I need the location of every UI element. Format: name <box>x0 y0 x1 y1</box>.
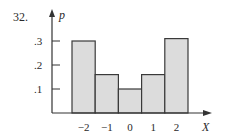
y-axis-label: p <box>58 8 65 22</box>
bar--1 <box>95 75 118 113</box>
x-tick-label: 0 <box>127 121 133 133</box>
bar-1 <box>142 75 165 113</box>
bars-group <box>72 39 188 113</box>
x-tick-label: −2 <box>78 121 90 133</box>
y-tick-label: .1 <box>34 83 42 95</box>
bar-0 <box>118 89 141 113</box>
x-axis-label: X <box>201 120 210 134</box>
y-ticks-group: .1.2.3 <box>34 35 60 95</box>
x-tick-label: 1 <box>150 121 156 133</box>
y-tick-label: .3 <box>34 35 43 47</box>
x-tick-label: 2 <box>174 121 180 133</box>
x-ticks-group: −2−1012 <box>78 121 179 133</box>
bar--2 <box>72 41 95 113</box>
x-tick-label: −1 <box>101 121 113 133</box>
bar-2 <box>165 39 188 113</box>
probability-histogram: p X .1.2.3 −2−1012 <box>0 0 228 136</box>
x-axis-arrow-icon <box>203 110 212 116</box>
y-tick-label: .2 <box>34 59 42 71</box>
y-axis-arrow-icon <box>49 9 55 17</box>
